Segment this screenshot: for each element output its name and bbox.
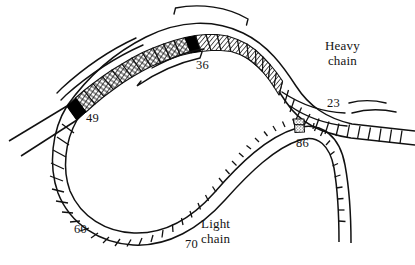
label-residue-49: 49 (86, 111, 99, 125)
label-residue-23: 23 (327, 96, 340, 110)
light-chain-stipple-segment-86 (293, 119, 305, 133)
label-residue-60: 60 (74, 222, 87, 236)
label-residue-36: 36 (196, 58, 209, 72)
label-residue-86: 86 (296, 136, 309, 150)
leader-23-tick2 (352, 110, 396, 113)
bracket-top (174, 6, 248, 25)
label-residue-70: 70 (185, 237, 198, 251)
figure-canvas: 49 36 23 86 60 70 Heavy chain Light chai… (0, 0, 415, 265)
label-heavy-chain: Heavy chain (325, 39, 360, 68)
label-light-chain: Light chain (201, 217, 230, 246)
leader-23-tick (349, 101, 386, 103)
